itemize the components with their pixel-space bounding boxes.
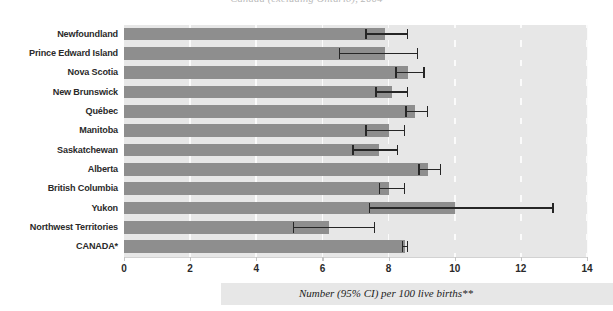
chart-row bbox=[124, 180, 587, 199]
error-bar bbox=[379, 188, 405, 190]
error-bar bbox=[352, 149, 398, 151]
error-bar-cap-high bbox=[407, 87, 409, 98]
chart-row bbox=[124, 238, 587, 257]
bar bbox=[124, 240, 405, 253]
bar bbox=[124, 86, 392, 99]
error-bar bbox=[365, 130, 405, 132]
error-bar-cap-high bbox=[397, 145, 399, 156]
x-tick-6 bbox=[322, 257, 323, 261]
bar bbox=[124, 163, 428, 176]
error-bar bbox=[405, 111, 428, 113]
chart-row bbox=[124, 25, 587, 44]
error-bar-cap-low bbox=[339, 48, 341, 59]
error-bar-cap-low bbox=[365, 29, 367, 40]
y-axis-labels: NewfoundlandPrince Edward IslandNova Sco… bbox=[0, 25, 118, 257]
error-bar-cap-low bbox=[405, 106, 407, 117]
y-axis-label-prince-edward-island: Prince Edward Island bbox=[0, 48, 118, 58]
error-bar bbox=[365, 33, 408, 35]
y-axis-label-yukon: Yukon bbox=[0, 203, 118, 213]
x-axis-line bbox=[124, 257, 587, 258]
error-bar-cap-low bbox=[352, 145, 354, 156]
error-bar bbox=[339, 53, 418, 55]
error-bar-cap-high bbox=[407, 241, 409, 252]
y-axis-label-nova-scotia: Nova Scotia bbox=[0, 67, 118, 77]
y-axis-label-british-columbia: British Columbia bbox=[0, 183, 118, 193]
error-bar-cap-low bbox=[379, 183, 381, 194]
y-axis-label-canada: CANADA* bbox=[0, 241, 118, 251]
chart-row bbox=[124, 160, 587, 179]
x-tick-label-8: 8 bbox=[386, 263, 392, 274]
x-tick-10 bbox=[455, 257, 456, 261]
error-bar-cap-high bbox=[374, 222, 376, 233]
y-axis-label-qu-bec: Québec bbox=[0, 106, 118, 116]
error-bar-cap-high bbox=[423, 67, 425, 78]
bar bbox=[124, 28, 385, 41]
y-axis-label-alberta: Alberta bbox=[0, 164, 118, 174]
y-axis-label-manitoba: Manitoba bbox=[0, 125, 118, 135]
error-bar bbox=[369, 207, 554, 209]
x-tick-2 bbox=[190, 257, 191, 261]
error-bar-cap-high bbox=[417, 48, 419, 59]
error-bar-cap-low bbox=[369, 203, 371, 214]
y-axis-label-saskatchewan: Saskatchewan bbox=[0, 145, 118, 155]
bar bbox=[124, 105, 415, 118]
bar bbox=[124, 124, 389, 137]
x-tick-label-10: 10 bbox=[449, 263, 460, 274]
error-bar-cap-low bbox=[375, 87, 377, 98]
x-tick-label-14: 14 bbox=[581, 263, 592, 274]
chart-row bbox=[124, 83, 587, 102]
error-bar-cap-low bbox=[293, 222, 295, 233]
chart-row bbox=[124, 44, 587, 63]
x-tick-label-0: 0 bbox=[121, 263, 127, 274]
y-axis-label-newfoundland: Newfoundland bbox=[0, 29, 118, 39]
x-tick-4 bbox=[256, 257, 257, 261]
error-bar-cap-high bbox=[552, 203, 554, 214]
error-bar bbox=[375, 91, 408, 93]
error-bar-cap-high bbox=[427, 106, 429, 117]
chart-row bbox=[124, 64, 587, 83]
y-axis-label-new-brunswick: New Brunswick bbox=[0, 87, 118, 97]
chart-row bbox=[124, 199, 587, 218]
error-bar-cap-high bbox=[404, 125, 406, 136]
x-axis-caption: Number (95% CI) per 100 live births** bbox=[221, 287, 551, 299]
error-bar-cap-high bbox=[440, 164, 442, 175]
chart-row bbox=[124, 102, 587, 121]
bar bbox=[124, 182, 389, 195]
x-tick-12 bbox=[521, 257, 522, 261]
chart-row bbox=[124, 218, 587, 237]
error-bar-cap-low bbox=[395, 67, 397, 78]
error-bar-cap-high bbox=[407, 29, 409, 40]
error-bar-cap-low bbox=[418, 164, 420, 175]
x-tick-14 bbox=[587, 257, 588, 261]
x-tick-label-4: 4 bbox=[254, 263, 260, 274]
bar bbox=[124, 144, 379, 157]
x-tick-8 bbox=[389, 257, 390, 261]
chart-row bbox=[124, 122, 587, 141]
plot-area bbox=[124, 25, 587, 257]
y-axis-label-northwest-territories: Northwest Territories bbox=[0, 222, 118, 232]
x-tick-label-2: 2 bbox=[187, 263, 193, 274]
chart-row bbox=[124, 141, 587, 160]
error-bar bbox=[293, 227, 376, 229]
bar bbox=[124, 66, 408, 79]
error-bar bbox=[418, 169, 441, 171]
x-tick-0 bbox=[124, 257, 125, 261]
error-bar-cap-high bbox=[404, 183, 406, 194]
error-bar-cap-low bbox=[365, 125, 367, 136]
x-tick-label-6: 6 bbox=[320, 263, 326, 274]
chart-title: Canada (excluding Ontario), 2004 bbox=[0, 0, 613, 5]
x-tick-label-12: 12 bbox=[515, 263, 526, 274]
error-bar-cap-low bbox=[402, 241, 404, 252]
bar-chart-figure: Canada (excluding Ontario), 2004 Newfoun… bbox=[0, 0, 613, 311]
error-bar bbox=[395, 72, 425, 74]
